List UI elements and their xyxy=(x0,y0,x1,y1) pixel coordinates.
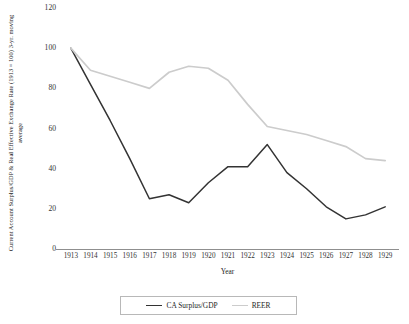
x-axis-tick-labels: 1913191419151916191719181919192019211922… xyxy=(55,253,400,267)
y-axis-tick-40: 40 xyxy=(30,165,56,173)
legend-swatch-reer xyxy=(232,305,248,306)
chart-legend: CA Surplus/GDPREER xyxy=(120,296,297,315)
y-axis-tick-labels: 020406080100120 xyxy=(30,0,56,324)
plot-area xyxy=(61,8,395,249)
series-line-reer xyxy=(71,48,385,160)
legend-entry-ca-surplus-gdp[interactable]: CA Surplus/GDP xyxy=(146,302,217,309)
y-axis-tick-100: 100 xyxy=(30,44,56,52)
legend-entry-reer[interactable]: REER xyxy=(232,302,271,309)
series-line-ca-surplus-gdp xyxy=(71,48,385,219)
x-axis-title: Year xyxy=(55,267,400,276)
line-chart: Current Account Surplus/GDP & Real Effec… xyxy=(0,0,409,324)
y-axis-tick-120: 120 xyxy=(30,4,56,12)
y-axis-tick-0: 0 xyxy=(30,245,56,253)
legend-label-reer: REER xyxy=(252,302,271,309)
plot-svg xyxy=(61,8,395,249)
y-axis-tick-80: 80 xyxy=(30,84,56,92)
x-axis-tick-1929: 1929 xyxy=(370,253,400,260)
y-axis-title: Current Account Surplus/GDP & Real Effec… xyxy=(2,8,28,258)
y-axis-tick-20: 20 xyxy=(30,205,56,213)
legend-label-ca-surplus-gdp: CA Surplus/GDP xyxy=(166,302,217,309)
x-axis-line xyxy=(56,249,399,250)
legend-swatch-ca-surplus-gdp xyxy=(146,305,162,306)
y-axis-tick-60: 60 xyxy=(30,125,56,133)
